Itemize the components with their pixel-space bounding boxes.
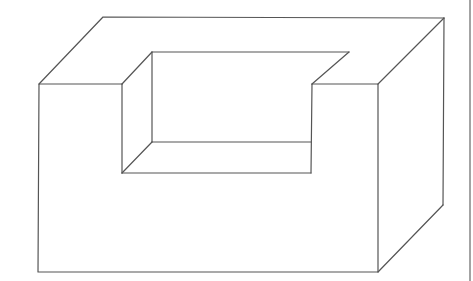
back-right-vertical-edge: [443, 18, 444, 205]
notched-block-diagram: [0, 0, 473, 281]
bottom-right-diagonal-edge: [378, 205, 443, 272]
notch-floor-left-diagonal: [122, 142, 152, 173]
notch-left-top-diagonal: [122, 52, 152, 84]
top-left-edge: [39, 17, 444, 84]
front-face-outline: [38, 84, 378, 272]
right-top-diagonal-edge: [378, 18, 444, 84]
notch-right-top-diagonal: [312, 52, 349, 84]
notch-front-right-vertical: [311, 84, 312, 173]
